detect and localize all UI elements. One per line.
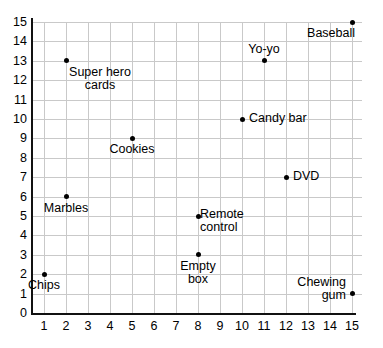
x-tick-label: 5 xyxy=(120,320,144,333)
data-point-label: Remote control xyxy=(200,208,244,234)
data-point-label: Super hero cards xyxy=(69,66,131,92)
y-tick-label: 0 xyxy=(3,307,27,320)
gridline-horizontal xyxy=(31,61,362,62)
data-point-marker xyxy=(350,20,355,25)
gridline-horizontal xyxy=(31,100,362,101)
gridline-horizontal xyxy=(31,22,362,23)
y-tick-label: 14 xyxy=(3,35,27,48)
y-tick-label: 3 xyxy=(3,249,27,262)
y-axis-line xyxy=(31,18,33,315)
y-tick-label: 10 xyxy=(3,113,27,126)
gridline-horizontal xyxy=(31,197,362,198)
y-tick-label: 11 xyxy=(3,94,27,107)
x-tick-label: 6 xyxy=(142,320,166,333)
y-tick-label: 5 xyxy=(3,210,27,223)
x-tick-label: 13 xyxy=(296,320,320,333)
y-tick-label: 8 xyxy=(3,152,27,165)
data-point-label: Baseball xyxy=(307,27,355,40)
y-tick-label: 9 xyxy=(3,132,27,145)
data-point-marker xyxy=(262,58,267,63)
gridline-horizontal xyxy=(31,235,362,236)
data-point-label: Candy bar xyxy=(249,112,307,125)
data-point-marker xyxy=(284,175,289,180)
gridline-vertical xyxy=(66,22,67,313)
gridline-vertical xyxy=(220,22,221,313)
y-tick-label: 13 xyxy=(3,55,27,68)
data-point-marker xyxy=(64,58,69,63)
x-tick-label: 10 xyxy=(230,320,254,333)
data-point-label: Yo-yo xyxy=(248,43,280,56)
x-axis-line xyxy=(31,313,356,315)
gridline-horizontal xyxy=(31,158,362,159)
y-tick-label: 1 xyxy=(3,288,27,301)
gridline-horizontal xyxy=(31,41,362,42)
gridline-vertical xyxy=(132,22,133,313)
y-tick-label: 6 xyxy=(3,191,27,204)
gridline-vertical xyxy=(176,22,177,313)
y-tick-label: 4 xyxy=(3,229,27,242)
x-tick-label: 14 xyxy=(318,320,342,333)
data-point-label: Cookies xyxy=(109,143,154,156)
x-tick-label: 9 xyxy=(208,320,232,333)
gridline-vertical xyxy=(242,22,243,313)
gridline-vertical xyxy=(44,22,45,313)
y-tick-label: 12 xyxy=(3,74,27,87)
data-point-marker xyxy=(350,291,355,296)
data-point-label: Chips xyxy=(28,279,60,292)
x-tick-label: 15 xyxy=(340,320,364,333)
data-point-marker xyxy=(64,194,69,199)
data-point-label: Marbles xyxy=(44,202,88,215)
x-tick-label: 7 xyxy=(164,320,188,333)
data-point-marker xyxy=(42,272,47,277)
data-point-marker xyxy=(196,252,201,257)
gridline-vertical xyxy=(308,22,309,313)
x-tick-label: 11 xyxy=(252,320,276,333)
x-tick-label: 2 xyxy=(54,320,78,333)
x-tick-label: 8 xyxy=(186,320,210,333)
x-tick-label: 12 xyxy=(274,320,298,333)
gridline-vertical xyxy=(352,22,353,313)
x-tick-label: 3 xyxy=(76,320,100,333)
gridline-vertical xyxy=(286,22,287,313)
gridline-vertical xyxy=(330,22,331,313)
gridline-horizontal xyxy=(31,119,362,120)
gridline-vertical xyxy=(154,22,155,313)
y-tick-label: 15 xyxy=(3,16,27,29)
data-point-label: Empty box xyxy=(180,260,215,286)
y-tick-label: 7 xyxy=(3,171,27,184)
x-tick-label: 1 xyxy=(32,320,56,333)
gridline-vertical xyxy=(264,22,265,313)
y-tick-label: 2 xyxy=(3,268,27,281)
data-point-label: Chewing gum xyxy=(297,276,346,302)
scatter-chart: 0123456789101112131415 12345678910111213… xyxy=(0,0,383,348)
x-tick-label: 4 xyxy=(98,320,122,333)
gridline-horizontal xyxy=(31,138,362,139)
data-point-label: DVD xyxy=(293,170,319,183)
data-point-marker xyxy=(130,136,135,141)
data-point-marker xyxy=(240,117,245,122)
